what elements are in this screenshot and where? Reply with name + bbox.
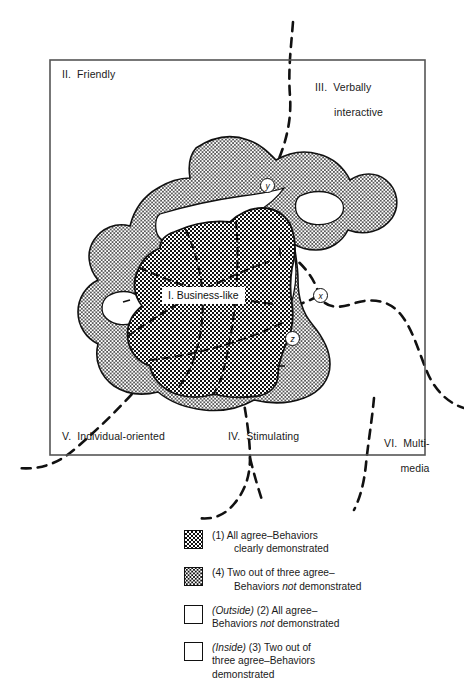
region-label-vi-line2: media (372, 462, 430, 475)
legend-item-3: (Inside) (3) Two out of three agree–Beha… (184, 641, 434, 681)
legend-item-3-line3: demonstrated (212, 669, 274, 680)
legend-item-4-text: (4) Two out of three agree– Behaviors no… (212, 566, 361, 592)
region-label-iii-line1: III. Verbally (315, 81, 371, 93)
legend-item-3-line1: (3) Two out of (246, 642, 311, 653)
legend-item-2-text: (Outside) (2) All agree– Behaviors not d… (212, 604, 339, 630)
legend-item-2-line2-emphasis: not (260, 618, 274, 629)
legend-item-1-text: (1) All agree–Behaviors clearly demonstr… (212, 529, 329, 555)
region-label-vi: VI. Multi- media (372, 424, 430, 499)
legend-item-2-line2-pre: Behaviors (212, 618, 260, 629)
legend-item-3-scope: (Inside) (212, 642, 246, 653)
legend-item-1: (1) All agree–Behaviors clearly demonstr… (184, 529, 434, 555)
legend-item-4-line2: Behaviors not demonstrated (234, 580, 361, 593)
legend: (1) All agree–Behaviors clearly demonstr… (184, 529, 434, 692)
legend-swatch-light-dotted (184, 567, 203, 586)
region-label-iv: IV. Stimulating (228, 430, 299, 443)
region-label-v: V. Individual-oriented (62, 430, 165, 443)
marker-z: z (285, 331, 300, 346)
figure-root: II. Friendly III. Verbally interactive V… (0, 0, 464, 698)
legend-item-2-line1: (2) All agree– (254, 605, 317, 616)
legend-item-1-line2: clearly demonstrated (234, 542, 329, 555)
legend-swatch-dense-checkerboard (184, 530, 203, 549)
legend-item-4-line1: (4) Two out of three agree– (212, 567, 335, 578)
legend-swatch-empty-outside (184, 605, 203, 624)
legend-item-4-line2-pre: Behaviors (234, 581, 282, 592)
legend-item-2: (Outside) (2) All agree– Behaviors not d… (184, 604, 434, 630)
marker-x: x (313, 288, 328, 303)
legend-item-3-text: (Inside) (3) Two out of three agree–Beha… (212, 641, 315, 681)
legend-item-4-line2-post: demonstrated (296, 581, 361, 592)
region-label-iii-line2: interactive (334, 106, 383, 119)
region-label-i: I. Business-like (162, 287, 245, 304)
legend-item-4: (4) Two out of three agree– Behaviors no… (184, 566, 434, 592)
marker-y: y (260, 178, 275, 193)
legend-item-4-line2-emphasis: not (282, 581, 296, 592)
legend-item-1-line1: (1) All agree–Behaviors (212, 530, 318, 541)
light-blob-notch-right (296, 192, 344, 225)
legend-swatch-empty-inside (184, 642, 203, 661)
legend-item-2-scope: (Outside) (212, 605, 254, 616)
region-label-ii: II. Friendly (62, 68, 115, 81)
region-label-iii: III. Verbally interactive (303, 68, 383, 131)
region-label-vi-line1: VI. Multi- (384, 437, 429, 449)
legend-item-3-line2: three agree–Behaviors (212, 655, 315, 666)
legend-item-2-line2-post: demonstrated (274, 618, 339, 629)
